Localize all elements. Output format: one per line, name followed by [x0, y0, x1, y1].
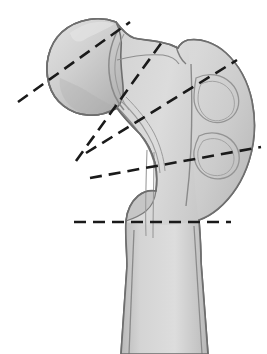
femur-figure	[0, 0, 267, 354]
femur-illustration	[0, 0, 267, 354]
greater-trochanter	[188, 40, 254, 220]
